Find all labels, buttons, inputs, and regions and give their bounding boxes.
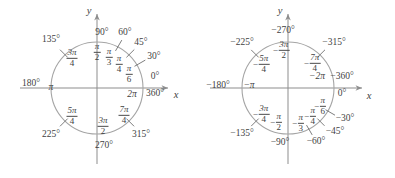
label-radians-3pi-over-4: 3π 4 [66, 48, 77, 68]
label-radians-5pi-over-4: 5π 4 [66, 106, 77, 126]
label-radians-mpi: −π [243, 81, 254, 91]
label-radians-neg-7pi-over-4: − 7π 4 [304, 53, 321, 73]
label-degrees-m180: −180° [206, 81, 229, 91]
label-degrees-225: 225° [42, 130, 60, 140]
label-radians-7pi-over-4: 7π 4 [118, 105, 129, 125]
label-degrees-m270: −270° [271, 26, 294, 36]
label-degrees-60: 60° [118, 28, 131, 38]
unit-circle-negative-angles: 0° −360° −30° −45° −60° −90° −135° −180°… [198, 0, 395, 178]
label-degrees-90: 90° [95, 28, 108, 38]
label-degrees-45: 45° [134, 38, 147, 48]
label-radians-neg-pi-over-4: − π 4 [304, 106, 316, 126]
label-degrees-0: 0° [338, 89, 347, 99]
label-degrees-180: 180° [22, 79, 40, 89]
label-radians-m2pi: −2π [309, 72, 325, 82]
label-degrees-m45: −45° [326, 127, 345, 137]
label-radians-neg-pi-over-3: − π 3 [292, 113, 304, 133]
label-radians-pi-over-3: π 3 [106, 47, 113, 67]
label-degrees-30: 30° [147, 52, 160, 62]
label-radians-pi: π [49, 83, 54, 93]
label-degrees-m90: −90° [271, 138, 290, 148]
label-radians-pi-over-4: π 4 [116, 54, 123, 74]
label-degrees-315: 315° [132, 130, 150, 140]
x-axis-label: x [174, 90, 179, 101]
unit-circle-figure-pair: 0° 360° 30° 45° 60° 90° 135° 180° 225° 2… [0, 0, 395, 178]
x-axis-label: x [367, 91, 372, 102]
label-radians-neg-5pi-over-4: − 5π 4 [253, 54, 270, 74]
label-radians-pi-over-2: π 2 [94, 42, 101, 62]
label-degrees-m135: −135° [230, 129, 253, 139]
label-radians-2pi: 2π [127, 90, 137, 100]
label-degrees-m315: −315° [322, 38, 345, 48]
label-degrees-135: 135° [42, 35, 60, 45]
label-degrees-m360: −360° [330, 72, 353, 82]
y-axis-label: y [278, 6, 283, 17]
label-degrees-m30: −30° [336, 114, 355, 124]
label-degrees-m60: −60° [307, 137, 326, 147]
y-axis-label: y [87, 6, 92, 17]
label-degrees-m225: −225° [230, 38, 253, 48]
label-radians-3pi-over-2: 3π 2 [97, 116, 108, 136]
label-radians-pi-over-6: π 6 [126, 64, 133, 84]
unit-circle-positive-angles: 0° 360° 30° 45° 60° 90° 135° 180° 225° 2… [0, 0, 198, 178]
label-degrees-270: 270° [95, 141, 113, 151]
label-radians-neg-pi-over-2: − π 2 [270, 112, 282, 132]
label-degrees-360: 360° [146, 89, 164, 99]
label-radians-neg-3pi-over-2: − 3π 2 [273, 40, 290, 60]
label-degrees-0: 0° [151, 72, 160, 82]
label-radians-neg-3pi-over-4: − 3π 4 [253, 104, 270, 124]
